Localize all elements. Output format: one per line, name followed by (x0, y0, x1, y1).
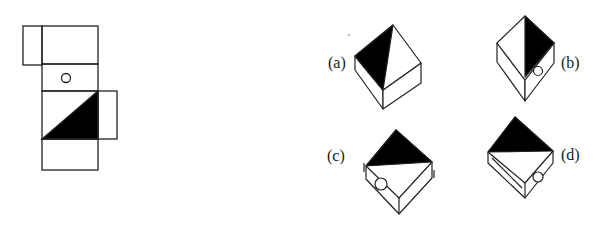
black-triangle-icon (42, 91, 98, 139)
option-d-label: (d) (561, 147, 580, 163)
option-a-cube[interactable] (355, 25, 421, 109)
option-c-cube[interactable] (364, 130, 434, 214)
black-triangle-icon (366, 130, 432, 166)
option-b-label: (b) (561, 55, 580, 71)
circle-icon (62, 74, 71, 83)
net-face-top (42, 26, 98, 64)
net-face-left-flap (23, 26, 42, 65)
option-a-label: (a) (328, 55, 346, 71)
option-d-cube[interactable] (488, 117, 553, 198)
net-face-bottom (42, 139, 98, 170)
option-c-label: (c) (327, 148, 345, 164)
cube-net (23, 26, 117, 170)
speck (348, 34, 350, 36)
option-b-cube[interactable] (497, 16, 554, 101)
circle-icon (534, 67, 543, 76)
net-face-right-flap (98, 91, 117, 139)
figure-canvas (0, 0, 602, 232)
circle-icon (533, 172, 543, 182)
circle-icon (375, 178, 387, 190)
black-triangle-icon (488, 117, 553, 152)
